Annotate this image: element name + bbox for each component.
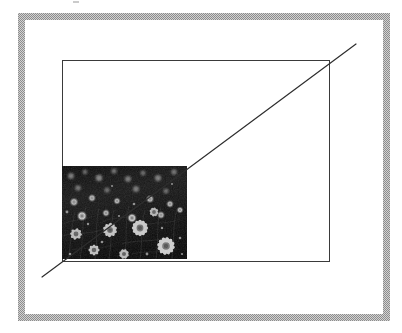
daisy-field-photo <box>62 166 187 259</box>
daisy-field-photo-bitmap <box>62 166 187 259</box>
scan-speck-artifact <box>73 1 79 3</box>
figure-canvas <box>0 0 402 333</box>
